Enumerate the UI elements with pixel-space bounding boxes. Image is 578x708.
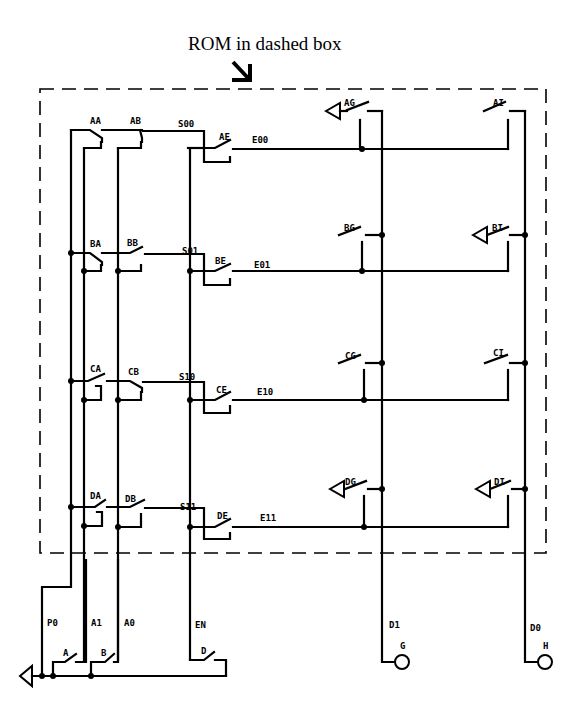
rom-row-01: BA BB S01 BE E01 BG BI: [68, 223, 528, 285]
switch-label-bi: BI: [492, 223, 503, 233]
label-p0: P0: [47, 618, 58, 628]
switch-label-cg: CG: [345, 351, 356, 361]
label-switch-b: B: [101, 648, 107, 658]
enable-label-e10: E10: [257, 387, 273, 397]
enable-label-e11: E11: [260, 513, 276, 523]
switch-label-ag: AG: [344, 98, 355, 108]
rom-row-00: AA AB S00 AE E00 AG AI: [71, 98, 525, 162]
label-en: EN: [195, 620, 206, 630]
switch-label-de: DE: [217, 511, 228, 521]
switch-label-ai: AI: [493, 98, 504, 108]
rom-dashed-box: [40, 89, 546, 553]
ground-icon: [476, 481, 490, 497]
enable-label-e00: E00: [252, 135, 268, 145]
lamp-h-icon: [538, 655, 552, 669]
switch-label-cb: CB: [128, 367, 139, 377]
label-d1: D1: [389, 620, 400, 630]
rom-row-10: CA CB S10 CE E10 CG CI: [68, 348, 528, 413]
switch-label-di: DI: [494, 477, 505, 487]
label-a1: A1: [91, 618, 102, 628]
switch-label-da: DA: [90, 491, 101, 501]
switch-label-ae: AE: [219, 132, 230, 142]
switch-label-ce: CE: [216, 385, 227, 395]
arrow-down-right-icon: [232, 62, 250, 80]
power-line-p0: [42, 130, 71, 676]
select-label-s11: S11: [180, 502, 196, 512]
ground-icon: [330, 481, 344, 497]
data-line-d0: [525, 111, 538, 662]
diagram-title: ROM in dashed box: [188, 33, 342, 54]
switch-label-bg: BG: [344, 223, 355, 233]
select-label-s01: S01: [182, 246, 198, 256]
label-lamp-g: G: [400, 641, 405, 651]
ground-icon: [473, 227, 487, 243]
data-line-d1: [382, 111, 395, 662]
switch-label-db: DB: [125, 494, 136, 504]
label-d0: D0: [530, 623, 541, 633]
rom-row-11: DA DB S11 DE E11 DG DI: [68, 477, 528, 539]
ground-icon: [20, 666, 32, 686]
label-lamp-h: H: [543, 641, 548, 651]
lamp-g-icon: [395, 655, 409, 669]
switch-label-ci: CI: [493, 348, 504, 358]
switch-label-be: BE: [215, 256, 226, 266]
label-switch-d: D: [201, 646, 207, 656]
select-label-s10: S10: [179, 372, 195, 382]
switch-label-ca: CA: [90, 364, 101, 374]
switch-label-ab: AB: [130, 116, 141, 126]
switch-label-dg: DG: [345, 477, 356, 487]
enable-label-e01: E01: [254, 260, 270, 270]
rom-circuit-diagram: ROM in dashed box AA AB S00 A: [0, 0, 578, 708]
input-switches: P0 A1 A0 EN A B D: [20, 560, 226, 686]
switch-label-ba: BA: [90, 239, 101, 249]
label-a0: A0: [124, 618, 135, 628]
switch-label-aa: AA: [90, 116, 101, 126]
switch-label-bb: BB: [127, 238, 138, 248]
select-label-s00: S00: [178, 119, 194, 129]
label-switch-a: A: [63, 648, 69, 658]
ground-icon: [326, 103, 340, 119]
